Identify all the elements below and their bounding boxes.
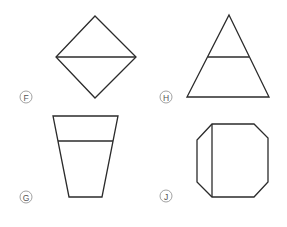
- shape-outline-j: [197, 124, 268, 197]
- option-label-j: J: [164, 192, 168, 202]
- option-f: F: [20, 16, 136, 103]
- answer-choices-figure: FHGJ: [0, 0, 287, 227]
- option-label-f: F: [23, 93, 28, 103]
- option-label-g: G: [23, 193, 30, 203]
- shapes-diagram: FHGJ: [0, 0, 287, 227]
- shape-outline-g: [53, 116, 118, 197]
- option-j: J: [160, 124, 268, 202]
- option-g: G: [20, 116, 118, 203]
- option-label-h: H: [163, 93, 169, 103]
- shape-outline-h: [187, 15, 269, 97]
- option-h: H: [160, 15, 269, 103]
